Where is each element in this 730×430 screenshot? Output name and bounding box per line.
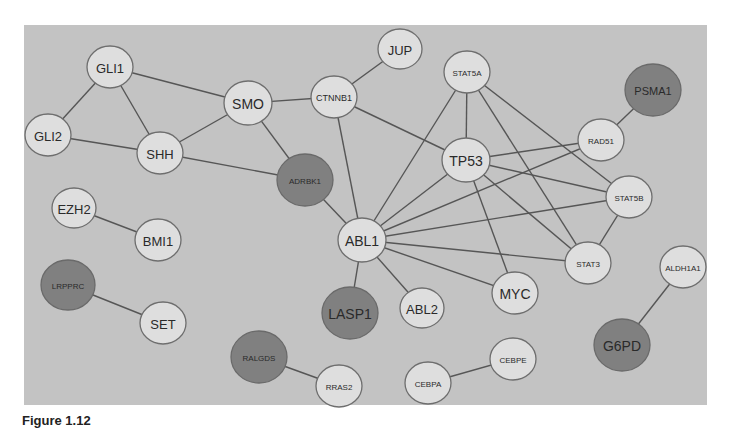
- node-rras2: RRAS2: [316, 365, 362, 407]
- node-label: LASP1: [328, 306, 372, 322]
- protein-interaction-network: GLI1GLI2SHHSMOCTNNB1JUPADRBK1EZH2BMI1LRP…: [0, 0, 730, 430]
- node-label: STAT5A: [452, 69, 482, 78]
- node-rad51: RAD51: [578, 119, 624, 161]
- node-psma1: PSMA1: [625, 64, 681, 116]
- node-gli2: GLI2: [25, 114, 71, 156]
- node-label: EZH2: [57, 202, 90, 217]
- node-ezh2: EZH2: [52, 188, 96, 228]
- node-lasp1: LASP1: [322, 287, 378, 339]
- network-figure: GLI1GLI2SHHSMOCTNNB1JUPADRBK1EZH2BMI1LRP…: [0, 0, 730, 430]
- node-label: TP53: [449, 153, 483, 169]
- node-cebpe: CEBPE: [490, 338, 536, 380]
- node-label: PSMA1: [634, 85, 671, 97]
- node-label: BMI1: [143, 234, 173, 249]
- node-label: SMO: [232, 96, 264, 112]
- node-stat5b: STAT5B: [606, 176, 652, 218]
- node-label: ABL1: [345, 233, 379, 249]
- node-ctnnb1: CTNNB1: [311, 76, 357, 118]
- node-g6pd: G6PD: [594, 319, 650, 371]
- edge-abl1-stat5b: [362, 197, 629, 240]
- node-set: SET: [140, 302, 186, 344]
- node-stat3: STAT3: [565, 242, 611, 284]
- node-smo: SMO: [224, 81, 272, 125]
- node-label: GLI1: [96, 61, 124, 76]
- node-label: SHH: [146, 147, 173, 162]
- node-label: CEBPE: [499, 356, 526, 365]
- node-label: JUP: [388, 43, 413, 58]
- node-aldh1a1: ALDH1A1: [660, 246, 706, 288]
- node-label: G6PD: [603, 338, 641, 354]
- node-label: RAD51: [588, 137, 614, 146]
- node-label: CTNNB1: [316, 93, 352, 103]
- node-label: CEBPA: [415, 380, 442, 389]
- node-stat5a: STAT5A: [444, 51, 490, 93]
- node-layer: GLI1GLI2SHHSMOCTNNB1JUPADRBK1EZH2BMI1LRP…: [25, 29, 706, 407]
- node-adrbk1: ADRBK1: [277, 154, 333, 206]
- node-tp53: TP53: [442, 138, 490, 182]
- node-shh: SHH: [137, 132, 183, 174]
- node-gli1: GLI1: [87, 46, 133, 88]
- node-label: ABL2: [406, 302, 438, 317]
- node-myc: MYC: [492, 272, 538, 314]
- node-label: ADRBK1: [289, 177, 322, 186]
- node-abl2: ABL2: [400, 288, 444, 328]
- node-label: STAT5B: [614, 194, 643, 203]
- node-label: MYC: [499, 286, 530, 302]
- node-jup: JUP: [378, 29, 422, 69]
- node-label: SET: [150, 317, 175, 332]
- node-lrpprc: LRPPRC: [41, 260, 95, 310]
- node-label: RRAS2: [326, 383, 353, 392]
- node-label: LRPPRC: [52, 282, 85, 291]
- node-label: STAT3: [576, 260, 600, 269]
- node-label: ALDH1A1: [665, 264, 701, 273]
- node-label: RALGDS: [243, 354, 276, 363]
- node-cebpa: CEBPA: [405, 362, 451, 404]
- node-abl1: ABL1: [338, 218, 386, 262]
- figure-caption: Figure 1.12: [22, 413, 91, 428]
- node-ralgds: RALGDS: [231, 331, 287, 383]
- node-label: GLI2: [34, 129, 62, 144]
- node-bmi1: BMI1: [135, 219, 181, 261]
